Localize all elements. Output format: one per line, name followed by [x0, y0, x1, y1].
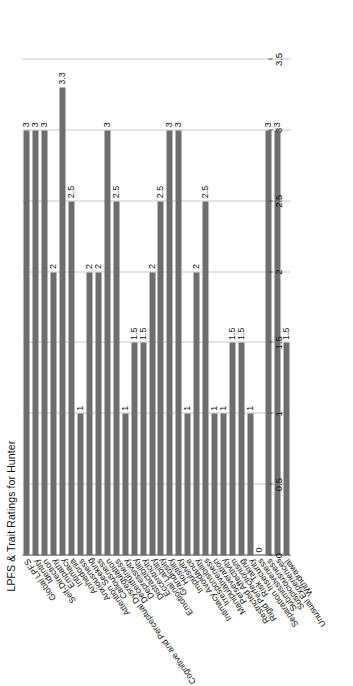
bar-value-label: 0: [254, 547, 263, 552]
bar-value-label: 1: [219, 405, 228, 410]
bar: [220, 413, 226, 555]
bar: [140, 342, 146, 555]
axis-tick-label: 0: [272, 552, 283, 557]
bar-value-label: 1: [120, 405, 129, 410]
bar-value-label: 2: [49, 264, 58, 269]
plot-area: 3Global LPFS3Identity3Self-Direction2Emp…: [22, 59, 290, 555]
bar: [157, 201, 163, 555]
bar-value-label: 3.3: [58, 72, 67, 85]
axis-tick-label: 1.5: [272, 336, 283, 349]
bar: [41, 130, 47, 555]
axis-tick-label: 2: [272, 269, 283, 274]
bar-value-label: 1: [245, 405, 254, 410]
axis-tickmark: [268, 200, 272, 201]
bar: [211, 413, 217, 555]
bar: [283, 342, 289, 555]
axis-tickmark: [268, 483, 272, 484]
axis-tickmark: [268, 554, 272, 555]
bar: [68, 201, 74, 555]
bar: [247, 413, 253, 555]
bar-value-label: 3: [40, 122, 49, 127]
bar-value-label: 3: [102, 122, 111, 127]
axis-tick-label: 3: [272, 127, 283, 132]
bar: [95, 272, 101, 555]
bar: [122, 413, 128, 555]
bar-value-label: 2: [192, 264, 201, 269]
bar: [59, 87, 65, 555]
bar-value-label: 2: [93, 264, 102, 269]
axis-tick-label: 0.5: [272, 478, 283, 491]
axis-tickmark: [268, 341, 272, 342]
bar: [175, 130, 181, 555]
bar-value-label: 3: [174, 122, 183, 127]
axis-tick-label: 3.5: [272, 52, 283, 65]
axis-tick-label: 1: [272, 411, 283, 416]
bar: [166, 130, 172, 555]
bar-value-label: 2.5: [156, 185, 165, 198]
bar: [131, 342, 137, 555]
bar: [193, 272, 199, 555]
bar: [32, 130, 38, 555]
bar-value-label: 2.5: [67, 185, 76, 198]
bar: [202, 201, 208, 555]
bar: [77, 413, 83, 555]
bar: [50, 272, 56, 555]
bar-value-label: 1.5: [138, 327, 147, 340]
gridline: [22, 58, 290, 59]
chart-title: LPFS & Trait Ratings for Hunter: [4, 440, 16, 591]
bar: [229, 342, 235, 555]
bar-value-label: 2.5: [111, 185, 120, 198]
bar-value-label: 3: [272, 122, 281, 127]
bar-value-label: 2.5: [201, 185, 210, 198]
bar: [86, 272, 92, 555]
bar: [149, 272, 155, 555]
bar-value-label: 1: [183, 405, 192, 410]
axis-tick-label: 2.5: [272, 194, 283, 207]
axis-tickmark: [268, 412, 272, 413]
bar: [23, 130, 29, 555]
axis-tickmark: [268, 58, 272, 59]
bar: [238, 342, 244, 555]
axis-tickmark: [268, 129, 272, 130]
bar-value-label: 1: [76, 405, 85, 410]
axis-tickmark: [268, 271, 272, 272]
bar: [113, 201, 119, 555]
bar-value-label: 2: [147, 264, 156, 269]
bar: [104, 130, 110, 555]
bar-value-label: 1.5: [236, 327, 245, 340]
bar: [184, 413, 190, 555]
